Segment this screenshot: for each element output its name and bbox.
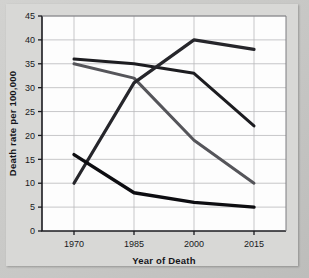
y-tick-label: 20 (25, 131, 35, 141)
y-tick-label: 45 (25, 11, 35, 21)
y-tick-label: 25 (25, 107, 35, 117)
y-tick-label: 15 (25, 155, 35, 165)
y-axis-title: Death rate per 100,000 (7, 71, 18, 176)
x-tick-label: 1970 (64, 239, 84, 249)
x-tick-label: 1985 (124, 239, 144, 249)
y-tick-label: 0 (30, 226, 35, 236)
y-tick-label: 10 (25, 178, 35, 188)
x-axis-title: Year of Death (132, 255, 195, 266)
line-chart: 0510152025303540451970198520002015 Year … (0, 0, 309, 278)
x-tick-label: 2015 (244, 239, 264, 249)
y-tick-label: 5 (30, 202, 35, 212)
chart-svg: 0510152025303540451970198520002015 Year … (0, 0, 309, 278)
y-tick-label: 40 (25, 35, 35, 45)
y-tick-label: 30 (25, 83, 35, 93)
x-tick-label: 2000 (184, 239, 204, 249)
y-tick-label: 35 (25, 59, 35, 69)
figure-canvas: 0510152025303540451970198520002015 Year … (0, 0, 309, 278)
